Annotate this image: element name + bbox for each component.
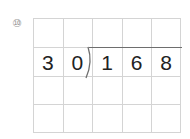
- division-bracket-icon: [84, 46, 94, 80]
- divisor-digit: 3: [33, 51, 63, 75]
- division-grid: 3 0 1 6 8: [33, 18, 181, 133]
- problem-number: ⑩: [11, 18, 23, 30]
- dividend-digit: 1: [92, 51, 122, 75]
- grid-line: [33, 18, 181, 19]
- grid-line: [33, 76, 181, 77]
- grid-line: [33, 104, 181, 105]
- division-overline: [89, 47, 182, 48]
- dividend-digit: 6: [122, 51, 152, 75]
- dividend-digit: 8: [151, 51, 181, 75]
- grid-line: [33, 132, 181, 133]
